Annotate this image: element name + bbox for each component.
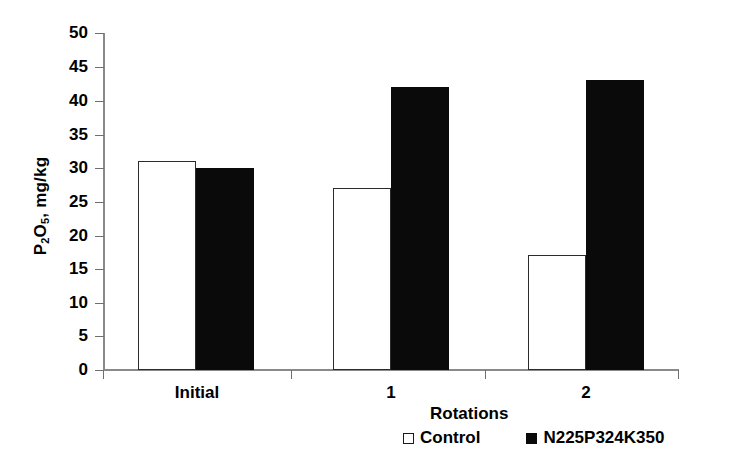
y-tick-label-40: 40	[48, 92, 88, 109]
y-tick-40	[95, 101, 104, 102]
y-tick-label-5: 5	[48, 327, 88, 344]
y-tick-label-wrap: 5	[48, 327, 88, 345]
x-tick-sep-2	[485, 370, 486, 379]
bar-treatment-initial	[196, 168, 254, 370]
y-tick-label-20: 20	[48, 227, 88, 244]
y-tick-label-wrap: 50	[48, 24, 88, 42]
bar-treatment-1	[391, 87, 449, 370]
y-tick-45	[95, 67, 104, 68]
y-tick-label-wrap: 20	[48, 227, 88, 245]
y-tick-35	[95, 135, 104, 136]
y-tick-label-wrap: 15	[48, 260, 88, 278]
y-tick-label-35: 35	[48, 126, 88, 143]
y-tick-label-25: 25	[48, 193, 88, 210]
chart-legend: Control N225P324K350	[403, 428, 664, 448]
legend-swatch-control-icon	[403, 433, 414, 444]
y-tick-50	[95, 33, 104, 34]
chart-figure: P2O5, mg/kg 50 45 40 35 30 25 20 15 10 5…	[0, 0, 733, 463]
x-tick-sep-1	[291, 370, 292, 379]
y-tick-30	[95, 168, 104, 169]
y-tick-15	[95, 269, 104, 270]
y-tick-label-wrap: 45	[48, 58, 88, 76]
x-category-label-initial: Initial	[137, 383, 257, 403]
y-tick-label-wrap: 0	[48, 361, 88, 379]
legend-label-control: Control	[420, 428, 480, 448]
y-tick-10	[95, 303, 104, 304]
x-category-label-2: 2	[526, 383, 646, 403]
x-tick-start	[103, 370, 104, 379]
y-tick-label-30: 30	[48, 159, 88, 176]
y-tick-label-0: 0	[48, 361, 88, 378]
y-tick-label-wrap: 35	[48, 126, 88, 144]
y-tick-label-wrap: 40	[48, 92, 88, 110]
legend-swatch-treatment-icon	[526, 433, 537, 444]
bar-control-2	[528, 255, 586, 370]
y-tick-label-15: 15	[48, 260, 88, 277]
y-tick-25	[95, 202, 104, 203]
bar-control-initial	[138, 161, 196, 370]
legend-label-treatment: N225P324K350	[543, 428, 664, 448]
y-tick-label-50: 50	[48, 24, 88, 41]
x-axis-title: Rotations	[430, 404, 508, 424]
y-tick-label-10: 10	[48, 294, 88, 311]
bar-treatment-2	[586, 80, 644, 370]
y-tick-label-45: 45	[48, 58, 88, 75]
y-tick-5	[95, 336, 104, 337]
legend-entry-treatment: N225P324K350	[526, 428, 664, 448]
y-tick-label-wrap: 25	[48, 193, 88, 211]
y-tick-label-wrap: 10	[48, 294, 88, 312]
x-category-label-1: 1	[331, 383, 451, 403]
y-tick-20	[95, 236, 104, 237]
legend-entry-control: Control	[403, 428, 480, 448]
x-tick-end	[678, 370, 679, 379]
bar-control-1	[333, 188, 391, 370]
y-tick-label-wrap: 30	[48, 159, 88, 177]
